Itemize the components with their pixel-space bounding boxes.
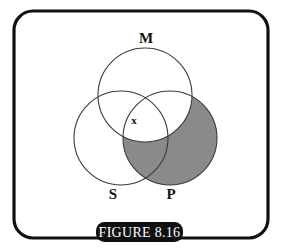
circle-label-m: M bbox=[139, 30, 153, 46]
x-mark: x bbox=[131, 114, 137, 126]
figure-caption: FIGURE 8.16 bbox=[96, 222, 183, 242]
venn-diagram-figure: M S P x FIGURE 8.16 bbox=[0, 0, 281, 252]
figure-page: M S P x FIGURE 8.16 bbox=[0, 0, 281, 252]
circle-label-p: P bbox=[166, 186, 175, 202]
circle-label-s: S bbox=[109, 186, 117, 202]
caption-label: FIGURE 8.16 bbox=[99, 225, 181, 240]
